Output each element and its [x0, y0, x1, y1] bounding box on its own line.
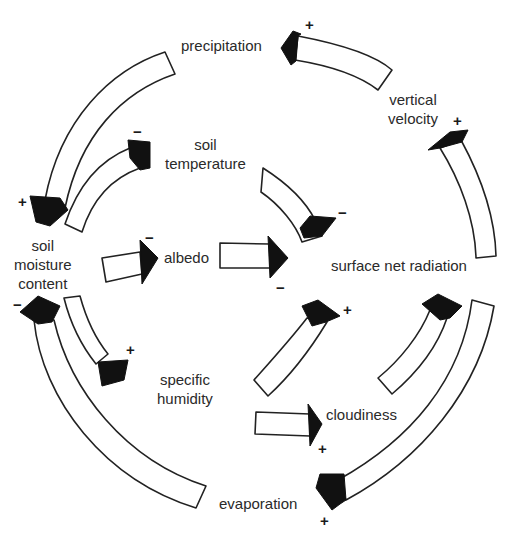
node-albedo: albedo: [164, 248, 209, 267]
node-soil-moisture-line2: moisture: [14, 255, 72, 274]
arrow-sm-to-albedo: [102, 240, 158, 284]
sign-albedo-to-snr: −: [276, 280, 285, 295]
arrow-precip-to-sm: [30, 52, 175, 226]
sign-sh-to-cloud: +: [318, 441, 327, 456]
node-specific-humidity-line1: specific: [157, 370, 213, 389]
node-vertical-velocity: vertical velocity: [388, 90, 438, 128]
node-soil-temperature-line2: temperature: [165, 154, 246, 173]
node-soil-moisture-content: soil moisture content: [14, 236, 72, 293]
arrow-snr-to-vv: [428, 130, 496, 258]
node-soil-temperature-line1: soil: [165, 135, 246, 154]
node-specific-humidity: specific humidity: [157, 370, 213, 408]
sign-sh-to-snr: +: [343, 302, 352, 317]
sign-sm-to-st: −: [133, 124, 142, 139]
node-specific-humidity-line2: humidity: [157, 389, 213, 408]
arrow-st-to-snr: [261, 168, 336, 242]
sign-sm-to-sh: +: [126, 342, 135, 357]
node-evaporation: evaporation: [219, 494, 297, 513]
sign-sm-to-albedo: −: [145, 230, 154, 245]
arrow-sh-to-cloud: [255, 404, 322, 446]
sign-precip-to-sm: +: [18, 194, 27, 209]
node-soil-moisture-line3: content: [14, 274, 72, 293]
node-soil-temperature: soil temperature: [165, 135, 246, 173]
node-vertical-velocity-line1: vertical: [388, 90, 438, 109]
arrow-sh-to-snr: [254, 300, 340, 396]
arrow-albedo-to-snr: [220, 236, 288, 278]
sign-evap-to-sm: −: [13, 297, 22, 312]
node-cloudiness: cloudiness: [326, 405, 397, 424]
arrow-vv-to-precip: [281, 31, 392, 90]
sign-st-to-snr: −: [338, 205, 347, 220]
node-vertical-velocity-line2: velocity: [388, 109, 438, 128]
node-precipitation: precipitation: [181, 36, 262, 55]
sign-snr-to-evap: +: [320, 513, 329, 528]
node-surface-net-radiation: surface net radiation: [331, 256, 467, 275]
sign-vv-to-precip: +: [305, 17, 314, 32]
sign-snr-to-vv: +: [453, 113, 462, 128]
node-soil-moisture-line1: soil: [14, 236, 72, 255]
